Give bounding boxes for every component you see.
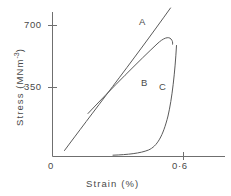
curve-label-b: B: [141, 77, 148, 88]
x-tick-label-06: 0·6: [172, 160, 188, 171]
y-axis-label-superscript: -3: [13, 52, 20, 58]
curve-label-a: A: [139, 16, 146, 27]
x-tick-label-0: 0: [48, 160, 54, 171]
curve-a: [65, 8, 171, 151]
y-tick-label-350: 350: [24, 81, 42, 92]
y-tick-label-700: 700: [24, 19, 42, 30]
y-axis-label-suffix: ): [14, 48, 25, 52]
curve-c: [113, 46, 177, 156]
x-axis-label: Strain (%): [86, 178, 139, 189]
curve-label-c: C: [159, 81, 166, 92]
y-axis-label-text: Stress (MNm: [14, 59, 25, 127]
stress-strain-figure: Stress (MNm-3) Strain (%) 700 350 0 0·6 …: [0, 0, 231, 196]
